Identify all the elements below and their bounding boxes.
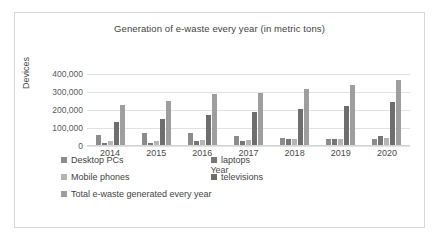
y-axis-ticks: 0100,000200,000300,000400,000 — [31, 74, 83, 146]
bar[interactable] — [384, 138, 389, 145]
bar-group — [179, 74, 225, 145]
legend-swatch-icon — [61, 174, 67, 180]
bar-group — [364, 74, 410, 145]
bar-groups — [87, 74, 410, 145]
legend-swatch-icon — [211, 174, 217, 180]
bar[interactable] — [280, 138, 285, 145]
bar[interactable] — [298, 109, 303, 145]
plot-area-wrapper: Devices 0100,000200,000300,000400,000 20… — [15, 43, 424, 139]
bar[interactable] — [378, 136, 383, 145]
bar-group — [272, 74, 318, 145]
y-axis-tick-label: 100,000 — [52, 123, 83, 133]
legend-swatch-icon — [61, 157, 67, 163]
legend-label: Desktop PCs — [71, 155, 124, 165]
chart-title: Generation of e-waste every year (in met… — [15, 23, 424, 34]
bar[interactable] — [304, 89, 309, 145]
legend-item[interactable]: Desktop PCs — [61, 155, 211, 165]
legend-label: Total e-waste generated every year — [71, 189, 212, 199]
bar[interactable] — [390, 102, 395, 145]
chart-frame: Generation of e-waste every year (in met… — [14, 12, 425, 228]
legend-label: laptops — [221, 155, 250, 165]
bar[interactable] — [212, 94, 217, 145]
legend-item[interactable]: laptops — [211, 155, 381, 165]
bar[interactable] — [160, 119, 165, 145]
bar-group — [318, 74, 364, 145]
y-axis-tick-label: 300,000 — [52, 87, 83, 97]
bar[interactable] — [188, 133, 193, 145]
bar[interactable] — [252, 112, 257, 145]
bar[interactable] — [206, 115, 211, 145]
bar-group — [225, 74, 271, 145]
bar[interactable] — [234, 136, 239, 145]
bar[interactable] — [396, 80, 401, 145]
bar-group — [87, 74, 133, 145]
gridline — [87, 146, 410, 147]
legend-item[interactable]: Mobile phones — [61, 172, 211, 182]
legend-label: Mobile phones — [71, 172, 130, 182]
legend-swatch-icon — [211, 157, 217, 163]
legend-swatch-icon — [61, 191, 67, 197]
bar[interactable] — [96, 135, 101, 145]
plot-area — [87, 74, 410, 146]
chart-legend: Desktop PCslaptopsMobile phonestelevisio… — [61, 155, 391, 206]
legend-item[interactable]: televisions — [211, 172, 381, 182]
legend-item[interactable]: Total e-waste generated every year — [61, 189, 391, 199]
bar[interactable] — [350, 85, 355, 145]
bar[interactable] — [120, 105, 125, 145]
bar[interactable] — [258, 93, 263, 145]
y-axis-tick-label: 0 — [78, 141, 83, 151]
y-axis-label: Devices — [21, 57, 31, 89]
legend-label: televisions — [221, 172, 263, 182]
bar[interactable] — [142, 133, 147, 145]
bar[interactable] — [114, 122, 119, 145]
bar[interactable] — [344, 106, 349, 145]
y-axis-tick-label: 200,000 — [52, 105, 83, 115]
y-axis-tick-label: 400,000 — [52, 69, 83, 79]
x-axis-line — [87, 145, 410, 146]
bar-group — [133, 74, 179, 145]
bar[interactable] — [166, 101, 171, 145]
